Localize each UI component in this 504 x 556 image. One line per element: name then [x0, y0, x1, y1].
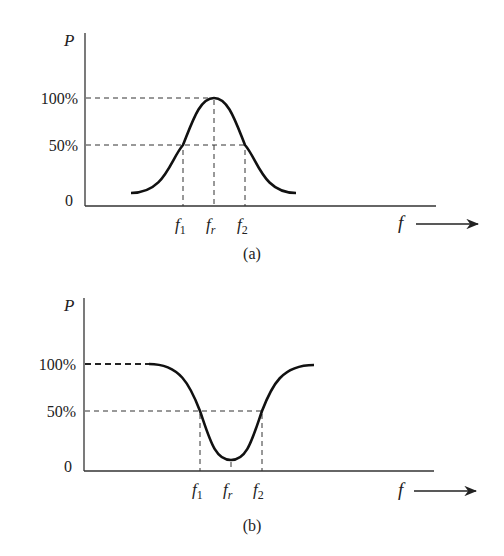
tick-f1: f1 — [192, 480, 203, 502]
x-axis-label: f — [398, 212, 406, 233]
tick-100: 100% — [39, 356, 76, 373]
y-axis-label: P — [63, 296, 74, 315]
chart-b: P 100% 50% 0 f1 fr f2 f (b) — [39, 296, 476, 535]
y-axis-label: P — [63, 31, 74, 50]
caption-a: (a) — [243, 245, 261, 263]
resonance-diagrams: P 100% 50% 0 f1 fr f2 f (a) P 100% 50% 0 — [0, 0, 504, 556]
x-axis-label: f — [398, 479, 406, 500]
response-curve-notch — [149, 364, 314, 460]
guide-lines — [85, 411, 262, 471]
tick-100: 100% — [41, 90, 78, 107]
tick-fr: fr — [206, 215, 216, 237]
caption-b: (b) — [243, 517, 262, 535]
tick-f1: f1 — [175, 215, 186, 237]
guide-lines — [86, 98, 245, 206]
tick-0: 0 — [65, 192, 73, 209]
tick-0: 0 — [64, 458, 72, 475]
tick-fr: fr — [223, 480, 233, 502]
chart-a: P 100% 50% 0 f1 fr f2 f (a) — [41, 31, 478, 263]
tick-f2: f2 — [253, 480, 264, 502]
tick-50: 50% — [49, 137, 78, 154]
tick-50: 50% — [47, 403, 76, 420]
tick-f2: f2 — [237, 215, 248, 237]
